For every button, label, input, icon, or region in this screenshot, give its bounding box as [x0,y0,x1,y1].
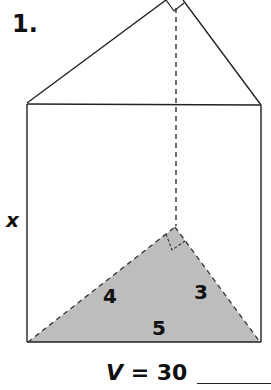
top-face-right-edge [183,0,261,105]
triangular-prism-figure [0,0,271,390]
top-face-left-edge [27,0,166,103]
height-label: x [6,210,19,230]
side-label-5: 5 [152,318,166,338]
volume-variable: V [106,360,123,385]
side-label-4: 4 [103,286,117,306]
problem-number: 1. [12,12,38,36]
answer-blank[interactable] [197,383,271,384]
side-label-3: 3 [194,282,208,302]
volume-value: = 30 [123,360,187,385]
shaded-base-triangle [28,227,260,342]
top-front-edge [27,104,261,105]
top-right-angle-marker [166,0,184,11]
volume-equation: V = 30 [106,362,187,384]
